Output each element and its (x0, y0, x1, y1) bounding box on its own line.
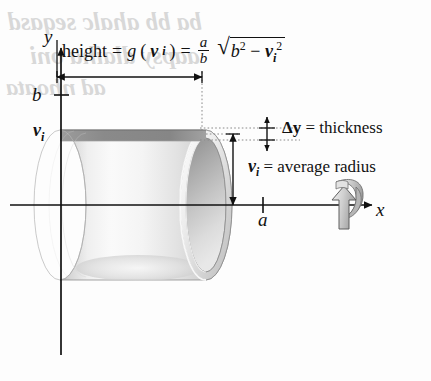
formula-close-paren: ) (170, 41, 176, 62)
thickness-text: thickness (319, 118, 382, 137)
radicand-minus: − (250, 41, 260, 61)
formula-equals-2: = (180, 41, 192, 62)
x-axis-label: x (376, 199, 384, 221)
formula-fraction-numerator: a (198, 35, 210, 50)
thickness-symbol: Δy (282, 118, 301, 137)
formula-lead: height (62, 41, 107, 62)
y-axis-label: y (44, 26, 52, 48)
formula-arg-subscript: i (162, 44, 165, 59)
y-axis-label-vi-subscript: i (41, 130, 44, 144)
shell-method-figure: ba bb ahalc seqasd aapsy dlaiha oni ad n… (0, 0, 431, 381)
radius-symbol-subscript: i (256, 166, 259, 179)
formula-arg-base: v (150, 41, 158, 62)
formula-open-paren: ( (140, 41, 146, 62)
radical-sign-icon: √ (217, 37, 230, 56)
y-axis-label-vi-base: v (33, 120, 41, 140)
radius-equals: = (263, 157, 273, 176)
y-axis-tick-label-b: b (32, 84, 42, 106)
annotation-average-radius: vi = average radius (248, 156, 376, 179)
x-axis-tick-label-a: a (258, 209, 268, 231)
formula-radical: √ b2 − vi2 (217, 38, 285, 67)
radius-symbol-base: v (248, 156, 256, 176)
formula-function-name: g (127, 41, 136, 62)
radius-text: average radius (277, 157, 376, 176)
radicand-b-exponent: 2 (240, 39, 246, 53)
thickness-equals: = (305, 118, 315, 137)
dimension-thickness (259, 117, 275, 151)
radicand-b: b (231, 41, 240, 61)
height-formula: height = g(vi) = a b √ b2 − vi2 (62, 36, 285, 68)
y-axis-label-vi: vi (33, 120, 44, 145)
formula-equals-1: = (111, 41, 123, 62)
annotation-thickness: Δy = thickness (282, 118, 383, 138)
formula-fraction-a-over-b: a b (198, 35, 210, 67)
radicand-vi-base: v (265, 41, 273, 61)
radicand-vi-exponent: 2 (276, 39, 282, 53)
formula-fraction-denominator: b (198, 50, 210, 66)
formula-radicand: b2 − vi2 (230, 37, 285, 66)
